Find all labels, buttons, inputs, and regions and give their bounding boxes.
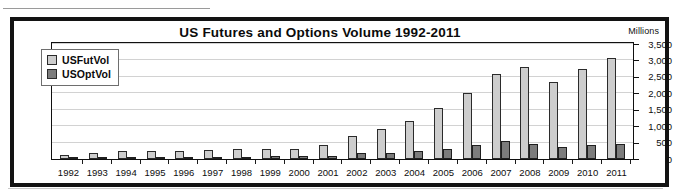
y-tick-label-3500: 3,500 bbox=[648, 38, 672, 49]
x-tick-mark-2011 bbox=[602, 160, 631, 165]
x-tick-label-1997: 1997 bbox=[198, 167, 227, 178]
header-rule bbox=[3, 8, 210, 9]
chart-title: US Futures and Options Volume 1992-2011 bbox=[14, 25, 626, 40]
legend-item-usfutvol: USFutVol bbox=[47, 53, 111, 67]
bar-usoptvol-1998 bbox=[242, 157, 251, 159]
x-tick-label-2009: 2009 bbox=[544, 167, 573, 178]
x-tick-mark-1993 bbox=[83, 160, 112, 165]
bar-usfutvol-2002 bbox=[348, 136, 357, 159]
x-tick-label-2005: 2005 bbox=[429, 167, 458, 178]
bar-group-2011 bbox=[601, 43, 630, 159]
bar-group-2007 bbox=[486, 43, 515, 159]
x-tick-label-2002: 2002 bbox=[342, 167, 371, 178]
bar-usfutvol-1999 bbox=[262, 149, 271, 159]
bar-series-group bbox=[52, 43, 633, 159]
x-tick-mark-2008 bbox=[516, 160, 545, 165]
bar-usfutvol-2009 bbox=[549, 82, 558, 159]
x-tick-label-2010: 2010 bbox=[573, 167, 602, 178]
y-tick-label-2000: 2,000 bbox=[648, 87, 672, 98]
legend-item-usoptvol: USOptVol bbox=[47, 67, 111, 81]
scan-artifact-line bbox=[8, 188, 663, 189]
bar-group-2008 bbox=[515, 43, 544, 159]
y-tick-label-1000: 1,000 bbox=[648, 120, 672, 131]
x-tick-mark-2005 bbox=[429, 160, 458, 165]
x-tick-label-1995: 1995 bbox=[141, 167, 170, 178]
bar-usfutvol-2005 bbox=[434, 108, 443, 159]
y-tick-label-1500: 1,500 bbox=[648, 104, 672, 115]
bar-usoptvol-2006 bbox=[472, 145, 481, 159]
bar-usoptvol-2008 bbox=[529, 144, 538, 159]
bar-usoptvol-2009 bbox=[558, 147, 567, 159]
x-tick-mark-1998 bbox=[227, 160, 256, 165]
x-tick-label-2007: 2007 bbox=[487, 167, 516, 178]
bar-usoptvol-2005 bbox=[443, 149, 452, 159]
y-tick-label-500: 500 bbox=[656, 137, 672, 148]
bar-usfutvol-2010 bbox=[578, 69, 587, 159]
x-tick-mark-1992 bbox=[54, 160, 83, 165]
x-tick-label-2008: 2008 bbox=[516, 167, 545, 178]
bar-usfutvol-1993 bbox=[89, 153, 98, 159]
y-tick-label-3000: 3,000 bbox=[648, 54, 672, 65]
x-tick-label-2004: 2004 bbox=[400, 167, 429, 178]
bar-group-1997 bbox=[199, 43, 228, 159]
chart-container: US Futures and Options Volume 1992-2011 … bbox=[10, 17, 669, 187]
x-tick-mark-1995 bbox=[141, 160, 170, 165]
bar-usfutvol-1998 bbox=[233, 149, 242, 159]
bar-usfutvol-2008 bbox=[520, 67, 529, 159]
x-tick-mark-1994 bbox=[112, 160, 141, 165]
bar-usoptvol-1997 bbox=[213, 157, 222, 159]
bar-usfutvol-2001 bbox=[319, 145, 328, 159]
clipped-header-label: Futures Volume bbox=[3, 0, 75, 2]
bar-group-2006 bbox=[458, 43, 487, 159]
x-tick-mark-2006 bbox=[458, 160, 487, 165]
bar-usoptvol-2002 bbox=[357, 153, 366, 159]
bar-usfutvol-1992 bbox=[60, 155, 69, 159]
x-tick-label-2003: 2003 bbox=[371, 167, 400, 178]
bar-group-2000 bbox=[285, 43, 314, 159]
bar-usfutvol-1995 bbox=[147, 151, 156, 159]
x-tick-label-2001: 2001 bbox=[314, 167, 343, 178]
bar-group-2003 bbox=[371, 43, 400, 159]
bar-group-1999 bbox=[256, 43, 285, 159]
y-tick-label-0: 0 bbox=[667, 153, 672, 164]
bar-group-2010 bbox=[573, 43, 602, 159]
bar-usoptvol-2000 bbox=[299, 156, 308, 159]
bar-usoptvol-2001 bbox=[328, 156, 337, 159]
bar-usfutvol-2000 bbox=[290, 149, 299, 160]
x-tick-mark-2009 bbox=[544, 160, 573, 165]
bar-usoptvol-2007 bbox=[501, 141, 510, 159]
x-tick-mark-1997 bbox=[198, 160, 227, 165]
bar-usfutvol-1997 bbox=[204, 150, 213, 159]
x-axis-labels: 1992199319941995199619971998199920002001… bbox=[51, 167, 634, 178]
y-axis-labels: 3,5003,0002,5002,0001,5001,0005000 bbox=[636, 35, 672, 167]
x-tick-mark-1996 bbox=[169, 160, 198, 165]
bar-usfutvol-1996 bbox=[175, 151, 184, 159]
x-axis-ticks bbox=[51, 160, 634, 165]
bar-usfutvol-2006 bbox=[463, 93, 472, 159]
bar-usfutvol-2004 bbox=[405, 121, 414, 159]
plot-area bbox=[51, 42, 634, 160]
bar-group-2005 bbox=[429, 43, 458, 159]
bar-usoptvol-1996 bbox=[184, 157, 193, 159]
bar-group-2009 bbox=[544, 43, 573, 159]
x-tick-label-1994: 1994 bbox=[112, 167, 141, 178]
bar-group-1995 bbox=[141, 43, 170, 159]
bar-usoptvol-1993 bbox=[98, 157, 107, 159]
bar-usfutvol-2011 bbox=[607, 58, 616, 159]
bar-usfutvol-1994 bbox=[118, 151, 127, 159]
bar-usoptvol-1992 bbox=[69, 157, 78, 159]
bar-group-2002 bbox=[343, 43, 372, 159]
legend-swatch-icon-usoptvol bbox=[47, 69, 57, 79]
legend-swatch-icon-usfutvol bbox=[47, 55, 57, 65]
x-tick-mark-2001 bbox=[314, 160, 343, 165]
x-tick-label-2006: 2006 bbox=[458, 167, 487, 178]
x-tick-label-1999: 1999 bbox=[256, 167, 285, 178]
bar-usfutvol-2003 bbox=[377, 129, 386, 159]
bar-usoptvol-2010 bbox=[587, 145, 596, 159]
legend-label-usfutvol: USFutVol bbox=[62, 54, 109, 66]
bar-group-1998 bbox=[228, 43, 257, 159]
bar-group-2004 bbox=[400, 43, 429, 159]
bar-usfutvol-2007 bbox=[492, 74, 501, 159]
x-tick-label-1992: 1992 bbox=[54, 167, 83, 178]
bar-usoptvol-1994 bbox=[127, 157, 136, 159]
